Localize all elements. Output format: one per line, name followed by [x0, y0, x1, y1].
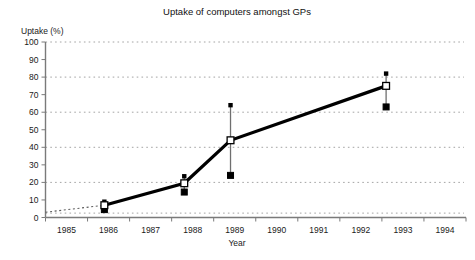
- chart-container: Uptake of computers amongst GPs Uptake (…: [0, 0, 475, 260]
- data-point-0: [101, 202, 108, 209]
- error-cap-lower-1: [181, 189, 187, 195]
- x-tick-label-1987: 1987: [141, 225, 160, 235]
- x-axis-title: Year: [228, 238, 245, 248]
- y-tick-label-100: 100: [24, 37, 38, 47]
- y-tick-label-0: 0: [34, 213, 39, 223]
- y-tick-label-50: 50: [29, 125, 39, 135]
- data-point-3: [383, 82, 390, 89]
- y-tick-label-80: 80: [29, 72, 39, 82]
- x-tick-label-1986: 1986: [99, 225, 118, 235]
- y-tick-label-20: 20: [29, 177, 39, 187]
- x-tick-label-1989: 1989: [225, 225, 244, 235]
- y-tick-label-10: 10: [29, 195, 39, 205]
- chart-title: Uptake of computers amongst GPs: [163, 6, 311, 17]
- x-tick-label-1991: 1991: [309, 225, 328, 235]
- lead-in-dotted-segment: [46, 205, 105, 212]
- uptake-line-chart: Uptake of computers amongst GPs Uptake (…: [0, 0, 475, 260]
- data-point-2: [227, 137, 234, 144]
- y-tick-label-70: 70: [29, 90, 39, 100]
- data-point-1: [181, 180, 188, 187]
- y-tick-label-30: 30: [29, 160, 39, 170]
- y-tick-label-90: 90: [29, 55, 39, 65]
- x-tick-label-1990: 1990: [267, 225, 286, 235]
- y-tick-label-40: 40: [29, 142, 39, 152]
- x-axis-ticks: 1985198619871988198919901991199219931994: [46, 218, 467, 235]
- series-polyline: [104, 86, 386, 205]
- x-tick-label-1988: 1988: [183, 225, 202, 235]
- x-tick-label-1994: 1994: [436, 225, 455, 235]
- error-cap-upper-3: [384, 71, 388, 75]
- y-axis-ticks: 0102030405060708090100: [24, 37, 45, 223]
- error-cap-upper-2: [228, 103, 232, 107]
- error-bars: [101, 71, 389, 212]
- series-line-uptake: [104, 86, 386, 205]
- y-axis-title: Uptake (%): [21, 26, 64, 36]
- error-cap-lower-3: [383, 104, 389, 110]
- x-tick-label-1985: 1985: [57, 225, 76, 235]
- lead-in-line: [46, 205, 105, 212]
- y-tick-label-60: 60: [29, 107, 39, 117]
- x-tick-label-1993: 1993: [393, 225, 412, 235]
- error-cap-lower-2: [228, 172, 234, 178]
- x-tick-label-1992: 1992: [351, 225, 370, 235]
- gridlines: [46, 42, 465, 213]
- error-cap-upper-1: [182, 174, 186, 178]
